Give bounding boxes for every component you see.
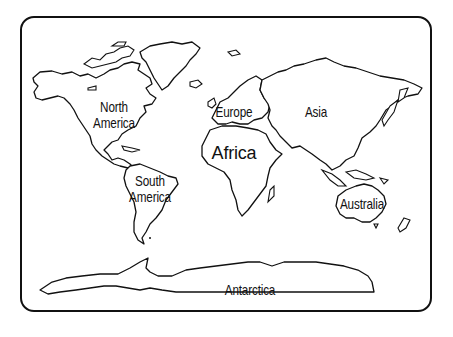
antarctica-text: Antarctica: [225, 281, 275, 298]
label-africa: Africa: [202, 145, 266, 161]
north-america-line2: America: [91, 115, 138, 131]
africa-outline: [202, 126, 282, 216]
asia-text: Asia: [305, 103, 327, 120]
label-asia: Asia: [300, 104, 331, 120]
antarctica-outline: [40, 258, 374, 294]
label-south-america: South America: [127, 173, 174, 205]
north-america-line1: North: [91, 99, 138, 115]
label-australia: Australia: [337, 196, 387, 212]
new-zealand-outline: [398, 218, 410, 232]
label-antarctica: Antarctica: [219, 282, 281, 298]
label-north-america: North America: [91, 99, 138, 131]
europe-text: Europe: [216, 103, 253, 120]
label-europe: Europe: [211, 104, 258, 120]
africa-text: Africa: [212, 143, 257, 163]
south-america-line1: South: [127, 173, 174, 189]
south-america-line2: America: [127, 189, 174, 205]
asia-outline: [260, 58, 422, 170]
australia-text: Australia: [340, 195, 384, 212]
